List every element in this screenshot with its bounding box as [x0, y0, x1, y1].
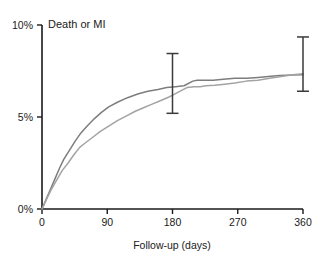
y-tick-label: 5% [18, 111, 33, 123]
y-axis-ticks: 0%5%10% [12, 19, 42, 215]
chart-figure: 0%5%10% 090180270360 Death or MI Follow-… [0, 0, 322, 262]
x-axis-title: Follow-up (days) [133, 239, 211, 251]
y-tick-label: 10% [12, 19, 33, 31]
error-bar-360 [297, 37, 309, 91]
x-tick-label: 90 [101, 216, 113, 228]
y-tick-label: 0% [18, 203, 33, 215]
x-tick-label: 0 [39, 216, 45, 228]
x-tick-label: 270 [229, 216, 247, 228]
chart-plot-area: 0%5%10% 090180270360 Death or MI Follow-… [0, 0, 322, 262]
x-axis-ticks: 090180270360 [39, 209, 312, 228]
x-tick-label: 360 [294, 216, 312, 228]
panel-title: Death or MI [48, 18, 105, 30]
error-bar-180 [167, 54, 179, 114]
x-tick-label: 180 [164, 216, 182, 228]
